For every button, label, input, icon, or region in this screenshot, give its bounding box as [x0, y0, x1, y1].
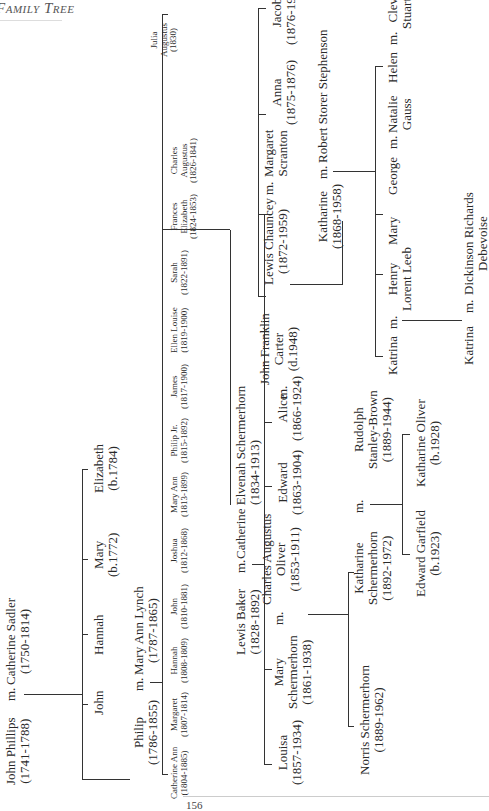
- connector: [258, 9, 259, 297]
- person-elizabeth: Elizabeth(b.1784): [92, 444, 120, 493]
- connector: [290, 284, 342, 285]
- connector: [370, 504, 402, 505]
- person-joshua: Joshua(1812-1868): [170, 528, 189, 573]
- page-number: 156: [186, 799, 203, 811]
- person-frances-elizabeth: FrancesElizabeth(1824-1853): [170, 194, 199, 239]
- person-rudolph-stanley-brown: RudolphStanley-Brown(1889-1944): [352, 390, 394, 469]
- connector: [375, 66, 383, 67]
- connector: [230, 230, 231, 505]
- marriage-label: m.: [316, 166, 330, 179]
- connector: [258, 296, 266, 297]
- person-natalie-gauss: NatalieGauss: [386, 95, 414, 133]
- connector: [82, 779, 130, 780]
- connector: [162, 774, 168, 775]
- person-mary-ann-lynch: Mary Ann Lynch(1787-1865): [132, 586, 160, 675]
- person-john-franklin-carter: John FranklinCarter(d.1948): [258, 313, 300, 385]
- marriage-label: m.: [462, 300, 476, 313]
- person-catherine-sadler: Catherine Sadler(1750-1814): [4, 598, 32, 685]
- connector: [333, 171, 375, 172]
- person-catherine-ann: Catherine Ann(1804-1885): [170, 747, 189, 799]
- person-edward: Edward(1863-1904): [276, 450, 304, 515]
- person-margaret: Margaret(1807-1814): [170, 692, 189, 737]
- connector: [402, 320, 462, 321]
- person-jacob: Jacob(1876-1958): [270, 0, 298, 45]
- person-john-phillips: John Phillips(1741-1788): [4, 717, 32, 785]
- connector: [162, 15, 163, 775]
- connector: [402, 434, 410, 435]
- person-charles-augustus-oliver: Charles AugustusOliver(1853-1911): [260, 514, 302, 605]
- marriage-label: m.: [234, 560, 248, 573]
- person-charles-augustus: CharlesAugustus(1826-1841): [170, 138, 199, 183]
- person-mary-schermerhorn: MarySchermerhorn(1861-1938): [272, 635, 314, 709]
- connector: [348, 573, 349, 727]
- connector: [258, 8, 266, 9]
- marriage-label: m.: [352, 500, 366, 513]
- connector: [264, 422, 272, 423]
- marriage-label: m.: [262, 182, 276, 195]
- marriage-label: m.: [4, 688, 18, 701]
- person-katharine-oliver: Katharine Oliver(b.1928): [414, 399, 442, 487]
- connector: [82, 634, 88, 635]
- person-lewis-baker: Lewis Baker(1828-1892): [234, 589, 262, 655]
- connector: [258, 114, 266, 115]
- person-julia-augustus: JuliaAugustus(1830): [150, 23, 179, 57]
- person-george: George: [386, 157, 400, 195]
- connector: [375, 214, 383, 215]
- person-mary-stephenson: Mary: [386, 217, 400, 245]
- person-robert-storer-stephenson: Robert Storer Stephenson: [316, 29, 330, 163]
- person-catherine-elvenah: Catherine Elvenah Schermerhorn(1834-1913…: [234, 386, 262, 559]
- connector: [82, 559, 88, 560]
- connector: [308, 614, 348, 615]
- connector: [402, 554, 410, 555]
- person-margaret-scranton: MargaretScranton: [262, 130, 290, 177]
- person-cleveland-stuart-white: ClevelandStuart White: [386, 0, 414, 29]
- marriage-label: m.: [276, 386, 290, 399]
- person-louisa: Louisa(1857-1934): [276, 720, 304, 785]
- footer-rule: [183, 796, 489, 797]
- person-norris-schermerhorn: Norris Schermerhorn(1889-1962): [358, 665, 386, 775]
- person-john: John: [92, 690, 106, 715]
- person-edward-garfield: Edward Garfield(b.1923): [414, 510, 442, 597]
- connector: [348, 726, 354, 727]
- connector: [375, 274, 383, 275]
- connector: [264, 764, 272, 765]
- person-katharine-stephenson: Katharine(1868-1958): [316, 184, 344, 249]
- person-philip-jr: Philip Jr.(1815-1892): [170, 418, 189, 463]
- marriage-label: m.: [386, 316, 400, 329]
- connector: [24, 694, 82, 695]
- connector: [150, 682, 162, 683]
- person-dickinson-debevoise: Dickinson RichardsDebevoise: [462, 192, 489, 295]
- person-mary-ann: Mary Ann(1813-1899): [170, 472, 189, 517]
- marriage-label: m.: [132, 678, 146, 691]
- marriage-label: m.: [386, 136, 400, 149]
- connector: [82, 469, 88, 470]
- person-ellen-louise: Ellen Louise(1819-1900): [170, 307, 189, 353]
- connector: [264, 215, 265, 765]
- person-helen: Helen: [386, 52, 400, 83]
- person-john-2: John(1810-1881): [170, 584, 189, 629]
- connector: [402, 435, 403, 555]
- marriage-label: m.: [386, 32, 400, 45]
- person-james: James(1817-1900): [170, 364, 189, 409]
- connector: [264, 486, 272, 487]
- connector: [162, 14, 168, 15]
- person-lewis-chauncey: Lewis Chauncey(1872-1959): [262, 198, 290, 285]
- person-hannah-2: Hannah(1808-1809): [170, 638, 189, 683]
- connector: [82, 704, 88, 705]
- person-hannah: Hannah: [92, 615, 106, 655]
- person-anna: Anna(1875-1876): [270, 60, 298, 125]
- person-henry-lorent-leeb: HenryLorent Leeb: [386, 247, 414, 311]
- person-katharine-schermerhorn: KatharineSchermerhorn(1892-1972): [352, 531, 394, 605]
- person-katrina-leeb: Katrina: [462, 326, 476, 365]
- connector: [375, 67, 376, 357]
- person-katrina: Katrina: [386, 336, 400, 375]
- person-mary: Mary(b.1772): [92, 533, 120, 577]
- person-sarah: Sarah(1822-1891): [170, 250, 189, 295]
- connector: [82, 470, 83, 780]
- marriage-label: m.: [272, 612, 286, 625]
- person-philip: Philip(1786-1855): [132, 700, 160, 765]
- connector: [162, 229, 230, 230]
- connector: [375, 356, 383, 357]
